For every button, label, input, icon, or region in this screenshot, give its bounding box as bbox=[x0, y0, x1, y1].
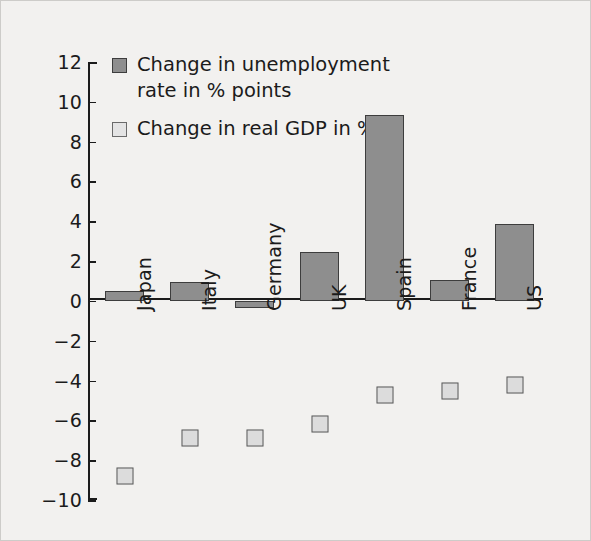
chart-figure: Change in unemployment rate in % points … bbox=[0, 0, 591, 541]
y-axis-line bbox=[88, 62, 90, 500]
category-label-uk: UK bbox=[328, 284, 350, 311]
y-tick-label: 10 bbox=[57, 91, 82, 113]
category-label-us: US bbox=[523, 285, 545, 311]
y-tick-mark bbox=[88, 62, 96, 64]
y-tick-mark bbox=[88, 341, 96, 343]
y-tick-label: −2 bbox=[54, 330, 82, 352]
y-tick-label: 0 bbox=[70, 290, 82, 312]
y-tick-mark bbox=[88, 460, 96, 462]
y-tick-label: −4 bbox=[54, 370, 82, 392]
y-tick-mark bbox=[88, 420, 96, 422]
y-tick-label: −6 bbox=[54, 409, 82, 431]
y-tick-label: 6 bbox=[70, 170, 82, 192]
y-tick-label: 8 bbox=[70, 131, 82, 153]
plot-area: 121086420−2−4−6−8−10 JapanItalyGermanyUK… bbox=[88, 62, 543, 500]
marker-germany bbox=[246, 430, 263, 447]
y-tick-label: −10 bbox=[41, 489, 82, 511]
marker-us bbox=[506, 376, 523, 393]
category-label-japan: Japan bbox=[133, 257, 155, 311]
y-tick-label: 2 bbox=[70, 250, 82, 272]
marker-italy bbox=[181, 430, 198, 447]
marker-spain bbox=[376, 387, 393, 404]
category-label-italy: Italy bbox=[198, 269, 220, 311]
category-label-france: France bbox=[458, 247, 480, 311]
y-tick-mark bbox=[88, 261, 96, 263]
y-tick-mark bbox=[88, 500, 96, 502]
y-tick-mark bbox=[88, 301, 96, 303]
y-tick-label: −8 bbox=[54, 449, 82, 471]
y-tick-mark bbox=[88, 381, 96, 383]
y-tick-mark bbox=[88, 102, 96, 104]
y-tick-label: 4 bbox=[70, 210, 82, 232]
marker-france bbox=[441, 382, 458, 399]
y-tick-label: 12 bbox=[57, 51, 82, 73]
y-tick-mark bbox=[88, 181, 96, 183]
category-label-germany: Germany bbox=[263, 222, 285, 311]
y-tick-mark bbox=[88, 221, 96, 223]
category-label-spain: Spain bbox=[393, 257, 415, 311]
marker-uk bbox=[311, 416, 328, 433]
marker-japan bbox=[116, 468, 133, 485]
y-tick-mark bbox=[88, 142, 96, 144]
